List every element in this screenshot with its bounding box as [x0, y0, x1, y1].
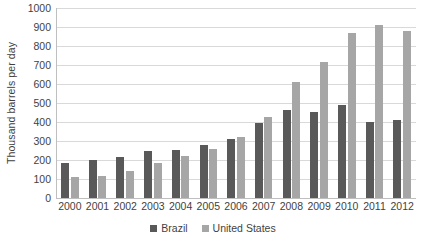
bar	[98, 176, 106, 198]
bar-group	[194, 8, 222, 198]
legend-item[interactable]: Brazil	[150, 222, 187, 234]
x-axis-baseline	[56, 198, 416, 199]
legend-swatch-icon	[202, 225, 209, 232]
bar	[126, 171, 134, 198]
y-axis-tick-label: 400	[33, 116, 51, 128]
y-axis-tick-label: 1000	[28, 2, 51, 14]
y-axis-tick-label: 300	[33, 135, 51, 147]
bar	[71, 177, 79, 198]
bar	[403, 31, 411, 198]
bar	[227, 139, 235, 198]
bar	[237, 137, 245, 198]
y-axis-tick-label: 0	[45, 192, 51, 204]
x-axis-tick-label: 2003	[141, 200, 164, 212]
y-axis-title-label: Thousand barrels per day	[5, 41, 17, 163]
bar	[209, 149, 217, 198]
x-axis-tick-label: 2004	[169, 200, 192, 212]
bar	[310, 112, 318, 198]
x-axis-tick-labels: 2000200120022003200420052006200720082009…	[56, 200, 416, 216]
x-axis-tick-label: 2008	[280, 200, 303, 212]
y-axis-tick-label: 600	[33, 78, 51, 90]
y-axis-title: Thousand barrels per day	[0, 0, 22, 205]
x-axis-tick-label: 2007	[252, 200, 275, 212]
x-axis-tick-label: 2010	[335, 200, 358, 212]
bar	[89, 160, 97, 198]
plot-area	[56, 8, 416, 198]
bar-group	[388, 8, 416, 198]
x-axis-tick-label: 2001	[86, 200, 109, 212]
bar-group	[167, 8, 195, 198]
legend-item[interactable]: United States	[202, 222, 276, 234]
x-axis-tick-label: 2012	[390, 200, 413, 212]
x-axis-tick-label: 2006	[224, 200, 247, 212]
bar-group	[305, 8, 333, 198]
y-axis-tick-label: 900	[33, 21, 51, 33]
bar-group	[333, 8, 361, 198]
y-axis-tick-labels: 01002003004005006007008009001000	[22, 8, 54, 198]
bar	[366, 122, 374, 198]
bar-group	[56, 8, 84, 198]
bars-layer	[56, 8, 416, 198]
bar-group	[139, 8, 167, 198]
y-axis-tick-label: 700	[33, 59, 51, 71]
y-axis-tick-label: 200	[33, 154, 51, 166]
bar	[393, 120, 401, 198]
bar-group	[111, 8, 139, 198]
x-axis-tick-label: 2011	[363, 200, 386, 212]
bar-group	[278, 8, 306, 198]
bar	[154, 163, 162, 198]
bar	[172, 150, 180, 198]
y-axis-tick-label: 800	[33, 40, 51, 52]
bar	[61, 163, 69, 198]
bar	[283, 110, 291, 198]
x-axis-tick-label: 2000	[58, 200, 81, 212]
bar	[200, 145, 208, 198]
legend-label: United States	[213, 222, 276, 234]
bar	[144, 151, 152, 198]
x-axis-tick-label: 2005	[197, 200, 220, 212]
bar-group	[250, 8, 278, 198]
bar	[116, 157, 124, 198]
x-axis-tick-label: 2002	[114, 200, 137, 212]
bar-chart: Thousand barrels per day 010020030040050…	[0, 0, 426, 244]
bar-group	[84, 8, 112, 198]
chart-legend: BrazilUnited States	[0, 222, 426, 234]
bar	[375, 25, 383, 198]
bar	[264, 117, 272, 198]
bar-group	[361, 8, 389, 198]
bar-group	[222, 8, 250, 198]
bar	[181, 156, 189, 198]
bar	[348, 33, 356, 198]
legend-label: Brazil	[161, 222, 187, 234]
legend-swatch-icon	[150, 225, 157, 232]
bar	[292, 82, 300, 198]
bar	[255, 123, 263, 198]
x-axis-tick-label: 2009	[307, 200, 330, 212]
y-axis-tick-label: 100	[33, 173, 51, 185]
y-axis-tick-label: 500	[33, 97, 51, 109]
bar	[320, 62, 328, 198]
bar	[338, 105, 346, 198]
